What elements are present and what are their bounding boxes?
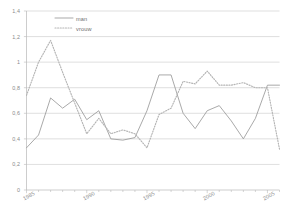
legend-swatches <box>55 18 73 28</box>
y-axis-tick-label: 0,4 <box>2 136 20 142</box>
y-axis-tick-label: 0,2 <box>2 161 20 167</box>
gridlines <box>27 11 280 164</box>
data-series <box>27 40 280 149</box>
y-axis-tick-label: 0 <box>2 187 20 193</box>
y-axis-tick-label: 0,6 <box>2 110 20 116</box>
chart-container: 00,20,40,60,811,21,4 1985199019952000200… <box>0 0 285 214</box>
y-axis-tick-label: 1 <box>2 59 20 65</box>
axis-lines <box>27 11 280 190</box>
y-axis-tick-label: 1,4 <box>2 8 20 14</box>
legend-item-man: man <box>76 16 87 22</box>
series-line-man <box>27 75 280 148</box>
y-axis-tick-label: 0,8 <box>2 85 20 91</box>
y-axis-tick-label: 1,2 <box>2 34 20 40</box>
y-axis-ticks <box>24 11 27 190</box>
legend-item-vrouw: vrouw <box>76 26 92 32</box>
series-line-vrouw <box>27 40 280 149</box>
line-chart-plot <box>0 0 285 214</box>
